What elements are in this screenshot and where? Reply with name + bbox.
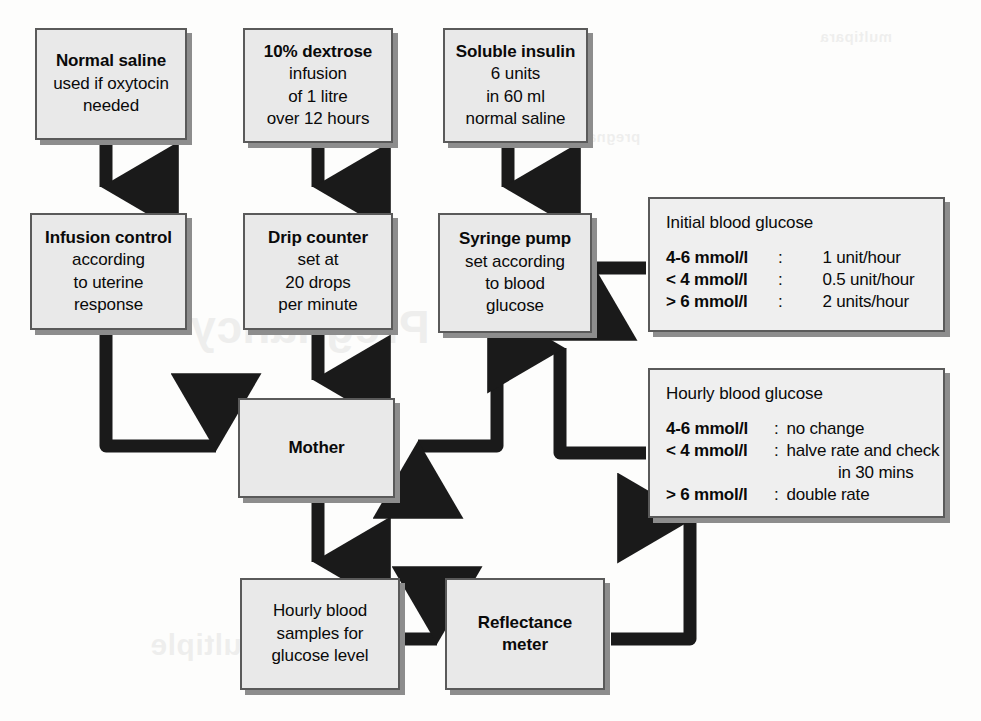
node-normal-saline[interactable]: Normal saline used if oxytocin needed	[35, 28, 187, 140]
node-hourly-blood-samples-line-0: Hourly blood	[246, 600, 394, 622]
panel-hourly-rule-1-continuation: in 30 mins	[666, 462, 927, 484]
node-infusion-control-title: Infusion control	[36, 227, 181, 249]
node-hourly-blood-samples-line-2: glucose level	[246, 645, 394, 667]
panel-hourly-rule-0-action: no change	[783, 418, 927, 440]
panel-initial-rule-2-separator: :	[774, 291, 787, 313]
panel-hourly-rule-1: < 4 mmol/l : halve rate and check	[666, 440, 927, 462]
panel-initial-rule-1-separator: :	[774, 269, 787, 291]
node-normal-saline-title: Normal saline	[41, 50, 181, 72]
arrow-syringe-pump-to-mother	[418, 333, 497, 446]
node-infusion-control-line-0: according	[36, 249, 181, 271]
panel-initial-rule-0-action: 1 unit/hour	[787, 247, 927, 269]
panel-hourly-blood-glucose[interactable]: Hourly blood glucose 4-6 mmol/l : no cha…	[648, 368, 945, 518]
node-syringe-pump-line-1: to blood	[444, 273, 586, 295]
node-syringe-pump-line-2: glucose	[444, 295, 586, 317]
node-dextrose-line-1: of 1 litre	[249, 86, 387, 108]
node-mother-title: Mother	[244, 437, 389, 459]
panel-hourly-rule-0-separator: :	[770, 418, 783, 440]
node-dextrose[interactable]: 10% dextrose infusion of 1 litre over 12…	[243, 28, 393, 143]
panel-hourly-heading: Hourly blood glucose	[666, 384, 927, 404]
node-reflectance-meter[interactable]: Reflectance meter	[445, 578, 605, 690]
panel-hourly-rule-2-condition: > 6 mmol/l	[666, 484, 770, 506]
ghost-text-1: multipara	[820, 28, 892, 45]
node-drip-counter-title: Drip counter	[249, 227, 387, 249]
arrow-infusion-control-to-mother	[106, 330, 216, 446]
panel-initial-rule-1-action: 0.5 unit/hour	[787, 269, 927, 291]
arrow-hourly-glucose-to-syringe-pump	[560, 348, 646, 453]
node-syringe-pump[interactable]: Syringe pump set according to blood gluc…	[438, 213, 592, 333]
panel-hourly-rule-0-condition: 4-6 mmol/l	[666, 418, 770, 440]
panel-initial-heading: Initial blood glucose	[666, 213, 927, 233]
panel-initial-rule-0-separator: :	[774, 247, 787, 269]
node-normal-saline-line-1: needed	[41, 95, 181, 117]
panel-initial-rule-1-condition: < 4 mmol/l	[666, 269, 774, 291]
panel-hourly-rule-1-action: halve rate and check	[783, 440, 940, 462]
node-dextrose-line-2: over 12 hours	[249, 108, 387, 130]
panel-initial-rule-2-action: 2 units/hour	[787, 291, 927, 313]
node-infusion-control[interactable]: Infusion control according to uterine re…	[30, 213, 187, 330]
node-soluble-insulin-line-0: 6 units	[449, 63, 582, 85]
node-infusion-control-line-1: to uterine	[36, 272, 181, 294]
panel-initial-rule-2: > 6 mmol/l : 2 units/hour	[666, 291, 927, 313]
node-drip-counter[interactable]: Drip counter set at 20 drops per minute	[243, 213, 393, 330]
panel-initial-rule-0: 4-6 mmol/l : 1 unit/hour	[666, 247, 927, 269]
node-syringe-pump-title: Syringe pump	[444, 228, 586, 250]
node-soluble-insulin-line-2: normal saline	[449, 108, 582, 130]
node-soluble-insulin-line-1: in 60 ml	[449, 86, 582, 108]
panel-hourly-rule-0: 4-6 mmol/l : no change	[666, 418, 927, 440]
arrow-reflectance-meter-to-hourly-glucose	[611, 518, 690, 639]
panel-hourly-rule-1-separator: :	[770, 440, 783, 462]
node-drip-counter-line-2: per minute	[249, 294, 387, 316]
panel-initial-rule-1: < 4 mmol/l : 0.5 unit/hour	[666, 269, 927, 291]
node-normal-saline-line-0: used if oxytocin	[41, 73, 181, 95]
node-hourly-blood-samples-line-1: samples for	[246, 623, 394, 645]
flowchart-canvas: multipara pregnancy Pregnancy multiple	[0, 0, 981, 721]
panel-hourly-rule-1-condition: < 4 mmol/l	[666, 440, 770, 462]
panel-hourly-rule-2: > 6 mmol/l : double rate	[666, 484, 927, 506]
node-drip-counter-line-1: 20 drops	[249, 272, 387, 294]
node-mother[interactable]: Mother	[238, 398, 395, 498]
panel-hourly-rule-2-separator: :	[770, 484, 783, 506]
panel-hourly-rule-2-action: double rate	[783, 484, 927, 506]
node-soluble-insulin-title: Soluble insulin	[449, 41, 582, 63]
node-reflectance-meter-line-0: meter	[451, 634, 599, 656]
node-drip-counter-line-0: set at	[249, 249, 387, 271]
node-syringe-pump-line-0: set according	[444, 251, 586, 273]
node-dextrose-title: 10% dextrose	[249, 41, 387, 63]
panel-initial-blood-glucose[interactable]: Initial blood glucose 4-6 mmol/l : 1 uni…	[648, 197, 945, 332]
node-dextrose-line-0: infusion	[249, 63, 387, 85]
panel-initial-rule-2-condition: > 6 mmol/l	[666, 291, 774, 313]
panel-initial-rule-0-condition: 4-6 mmol/l	[666, 247, 774, 269]
node-infusion-control-line-2: response	[36, 294, 181, 316]
node-soluble-insulin[interactable]: Soluble insulin 6 units in 60 ml normal …	[443, 28, 588, 143]
node-hourly-blood-samples[interactable]: Hourly blood samples for glucose level	[240, 578, 400, 690]
node-reflectance-meter-title: Reflectance	[451, 612, 599, 634]
